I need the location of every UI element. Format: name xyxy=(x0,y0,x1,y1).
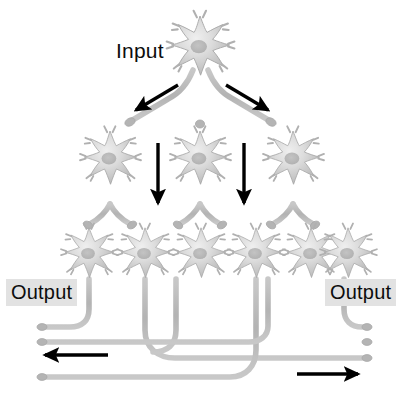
terminal-bulb xyxy=(195,120,204,128)
axon-input-to-right xyxy=(208,70,270,121)
neuron-middle-3[interactable] xyxy=(263,126,324,184)
output-neuron-layer xyxy=(61,223,377,277)
axon-mid-1-branch-left xyxy=(90,204,110,224)
neuron-output-4[interactable] xyxy=(228,223,285,277)
terminal-bulb xyxy=(362,355,372,362)
terminal-bulb xyxy=(362,324,372,331)
neuron-middle-1[interactable] xyxy=(80,126,141,184)
figure-canvas: Input Output Output xyxy=(0,0,406,401)
axon-mid-3-branch-left xyxy=(273,204,293,224)
terminal-bulb xyxy=(362,339,372,346)
neuron-output-3[interactable] xyxy=(173,223,230,277)
terminal-bulb xyxy=(37,339,47,346)
input-label: Input xyxy=(116,40,164,61)
terminal-bulb xyxy=(37,324,47,331)
output-label-right: Output xyxy=(325,279,396,306)
neuron-input-1[interactable] xyxy=(167,11,235,75)
axon-mid-1-branch-right xyxy=(110,204,130,224)
neuron-middle-2[interactable] xyxy=(170,126,231,184)
axon-mid-2-branch-right xyxy=(200,204,220,224)
neural-network-diagram xyxy=(0,0,406,401)
neuron-output-2[interactable] xyxy=(117,223,174,277)
output-label-left: Output xyxy=(6,279,77,306)
input-neuron-layer xyxy=(167,11,235,75)
axon-mid-2-branch-left xyxy=(180,204,200,224)
middle-neuron-layer xyxy=(80,126,324,184)
terminal-bulb xyxy=(37,374,47,381)
neuron-output-1[interactable] xyxy=(61,223,118,277)
axon-out-5 xyxy=(44,279,268,342)
axon-mid-3-branch-right xyxy=(293,204,313,224)
